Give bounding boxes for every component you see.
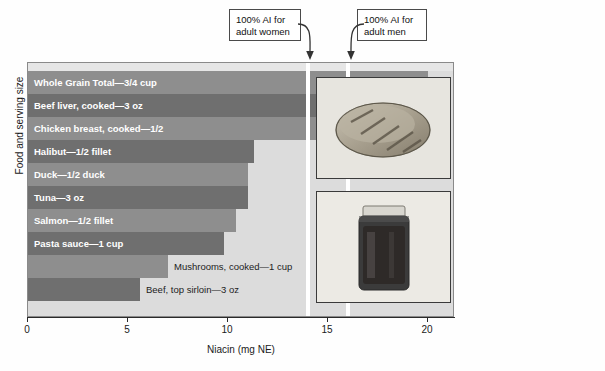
x-axis-title: Niacin (mg NE) (27, 344, 455, 355)
plot-top-strip (28, 63, 454, 71)
x-tick-label-10: 10 (221, 324, 232, 335)
bar-label-tuna: Tuna—3 oz (28, 186, 84, 209)
bar-label-chicken-breast: Chicken breast, cooked—1/2 (28, 117, 163, 140)
grilled-chicken-breast-image (317, 78, 450, 178)
callout-adult-men: 100% AI for adult men (357, 9, 427, 41)
bar-label-salmon: Salmon—1/2 fillet (28, 209, 113, 232)
bar-mushrooms (28, 255, 168, 278)
callout-adult-women: 100% AI for adult women (229, 9, 301, 41)
y-axis-title: Food and serving size (14, 51, 25, 201)
x-tick-label-20: 20 (421, 324, 432, 335)
bar-label-halibut: Halibut—1/2 fillet (28, 140, 111, 163)
pasta-sauce-jar-image (317, 192, 450, 302)
x-tick-15 (327, 317, 328, 322)
sauce-jar-illustration (317, 192, 450, 302)
bar-label-whole-grain-total: Whole Grain Total—3/4 cup (28, 71, 157, 94)
bar-beef-top-sirloin (28, 278, 140, 301)
bar-label-beef-top-sirloin: Beef, top sirloin—3 oz (142, 278, 239, 301)
x-tick-5 (127, 317, 128, 322)
grilled-chicken-breast-photo (316, 77, 451, 179)
plot-area: Whole Grain Total—3/4 cup Beef liver, co… (27, 62, 454, 317)
x-tick-label-5: 5 (124, 324, 130, 335)
bar-label-duck: Duck—1/2 duck (28, 163, 105, 186)
x-axis-line (27, 317, 455, 318)
pasta-sauce-jar-photo (316, 191, 451, 303)
bar-label-pasta-sauce: Pasta sauce—1 cup (28, 232, 123, 255)
bar-label-mushrooms: Mushrooms, cooked—1 cup (170, 255, 292, 278)
reference-line-adult-women (306, 63, 310, 317)
x-tick-20 (427, 317, 428, 322)
bar-label-beef-liver: Beef liver, cooked—3 oz (28, 94, 143, 117)
x-tick-10 (227, 317, 228, 322)
x-tick-label-0: 0 (24, 324, 30, 335)
chicken-breast-illustration (317, 78, 450, 178)
x-tick-0 (27, 317, 28, 322)
chart-figure: 100% AI for adult women 100% AI for adul… (0, 0, 605, 371)
x-tick-label-15: 15 (321, 324, 332, 335)
